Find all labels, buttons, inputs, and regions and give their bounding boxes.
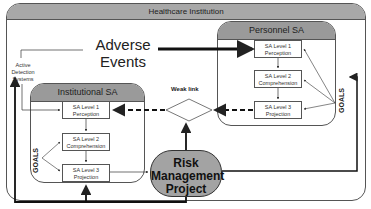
diagram-connectors: [0, 0, 371, 209]
notification-diamond: [166, 99, 212, 121]
